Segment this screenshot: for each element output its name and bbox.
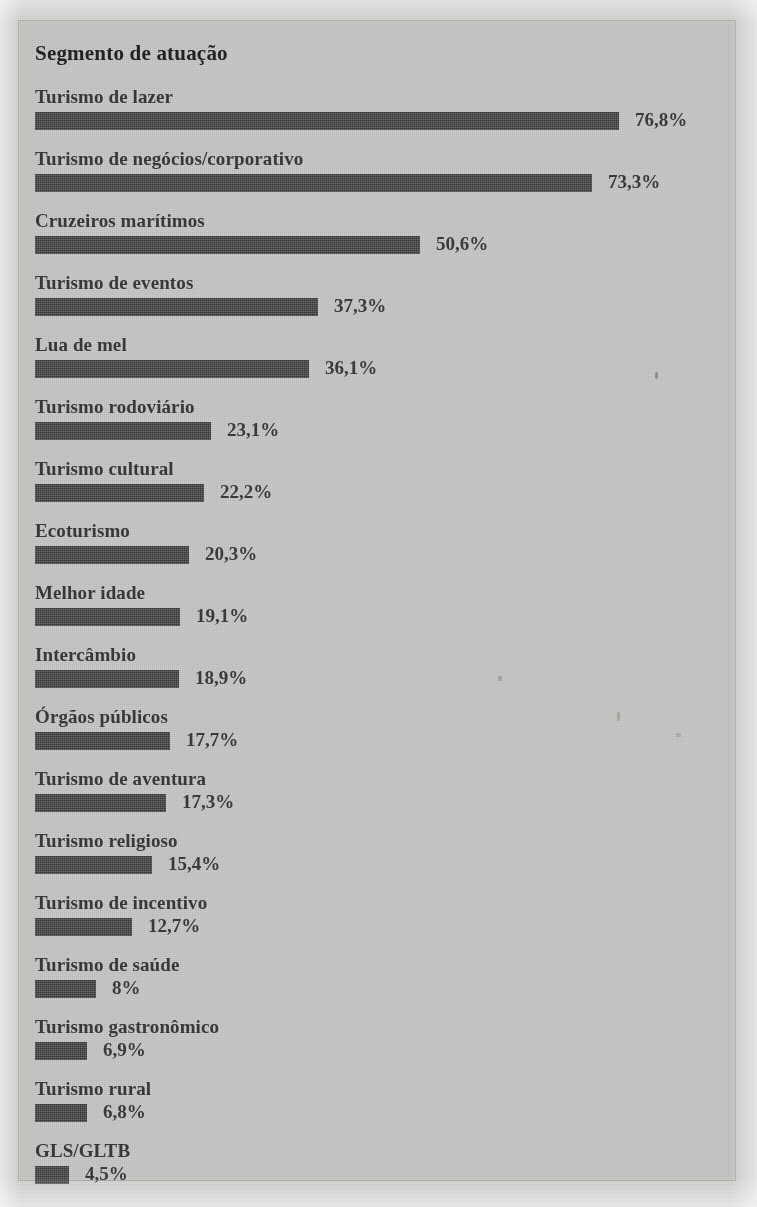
bar-category-label: Turismo rural [35, 1078, 151, 1100]
bar-value-label: 4,5% [85, 1163, 128, 1185]
bar-value-label: 37,3% [334, 295, 386, 317]
bar-track [35, 422, 725, 440]
page-title: Segmento de atuação [35, 41, 228, 66]
bar-value-label: 18,9% [195, 667, 247, 689]
bar-fill [35, 794, 166, 812]
bar-category-label: Turismo cultural [35, 458, 174, 480]
bar-fill [35, 918, 132, 936]
bar-fill [35, 546, 189, 564]
bar-category-label: Turismo religioso [35, 830, 178, 852]
bar-track [35, 546, 725, 564]
bar-fill [35, 236, 420, 254]
bar-track [35, 732, 725, 750]
bar-row: Órgãos públicos17,7% [18, 706, 736, 768]
bar-value-label: 73,3% [608, 171, 660, 193]
bar-value-label: 19,1% [196, 605, 248, 627]
bar-category-label: Intercâmbio [35, 644, 136, 666]
bar-category-label: Lua de mel [35, 334, 127, 356]
paper-speck [617, 712, 620, 721]
bar-category-label: Turismo de eventos [35, 272, 193, 294]
bar-track [35, 608, 725, 626]
bar-value-label: 6,9% [103, 1039, 146, 1061]
bar-fill [35, 980, 96, 998]
bar-row: Turismo de incentivo12,7% [18, 892, 736, 954]
bar-track [35, 856, 725, 874]
bar-fill [35, 422, 211, 440]
bar-value-label: 20,3% [205, 543, 257, 565]
bar-row: Turismo gastronômico6,9% [18, 1016, 736, 1078]
bar-value-label: 23,1% [227, 419, 279, 441]
bar-category-label: Melhor idade [35, 582, 145, 604]
bar-category-label: Ecoturismo [35, 520, 130, 542]
bar-value-label: 36,1% [325, 357, 377, 379]
bar-track [35, 484, 725, 502]
bar-fill [35, 112, 619, 130]
bar-row: Cruzeiros marítimos50,6% [18, 210, 736, 272]
bar-track [35, 1166, 725, 1184]
bar-category-label: GLS/GLTB [35, 1140, 130, 1162]
bar-category-label: Turismo de lazer [35, 86, 173, 108]
bar-category-label: Cruzeiros marítimos [35, 210, 205, 232]
bar-value-label: 22,2% [220, 481, 272, 503]
bar-value-label: 50,6% [436, 233, 488, 255]
bar-row: Turismo de negócios/corporativo73,3% [18, 148, 736, 210]
bar-category-label: Turismo rodoviário [35, 396, 195, 418]
bar-value-label: 15,4% [168, 853, 220, 875]
bar-fill [35, 608, 180, 626]
bar-row: Turismo de saúde8% [18, 954, 736, 1016]
bar-fill [35, 360, 309, 378]
bar-fill [35, 174, 592, 192]
bar-category-label: Turismo de aventura [35, 768, 206, 790]
bar-track [35, 670, 725, 688]
paper-speck [498, 676, 502, 681]
paper-speck [676, 733, 681, 737]
bar-category-label: Turismo gastronômico [35, 1016, 219, 1038]
bar-fill [35, 1166, 69, 1184]
bar-value-label: 8% [112, 977, 141, 999]
bar-row: Melhor idade19,1% [18, 582, 736, 644]
bar-fill [35, 298, 318, 316]
bar-track [35, 112, 725, 130]
bar-rows-container: Turismo de lazer76,8%Turismo de negócios… [18, 86, 736, 1202]
bar-fill [35, 1042, 87, 1060]
bar-row: Lua de mel36,1% [18, 334, 736, 396]
bar-category-label: Órgãos públicos [35, 706, 168, 728]
bar-row: Turismo rural6,8% [18, 1078, 736, 1140]
bar-fill [35, 1104, 87, 1122]
bar-category-label: Turismo de incentivo [35, 892, 207, 914]
bar-track [35, 918, 725, 936]
bar-fill [35, 670, 179, 688]
bar-track [35, 794, 725, 812]
bar-row: Turismo rodoviário23,1% [18, 396, 736, 458]
bar-value-label: 12,7% [148, 915, 200, 937]
bar-row: Turismo de eventos37,3% [18, 272, 736, 334]
bar-row: Turismo cultural22,2% [18, 458, 736, 520]
bar-row: Turismo de aventura17,3% [18, 768, 736, 830]
bar-value-label: 6,8% [103, 1101, 146, 1123]
bar-fill [35, 484, 204, 502]
bar-row: Turismo de lazer76,8% [18, 86, 736, 148]
bar-category-label: Turismo de saúde [35, 954, 180, 976]
bar-value-label: 17,3% [182, 791, 234, 813]
bar-row: Turismo religioso15,4% [18, 830, 736, 892]
bar-row: Intercâmbio18,9% [18, 644, 736, 706]
bar-row: Ecoturismo20,3% [18, 520, 736, 582]
chart-panel: Segmento de atuação Turismo de lazer76,8… [18, 20, 736, 1181]
bar-fill [35, 732, 170, 750]
bar-value-label: 17,7% [186, 729, 238, 751]
bar-track [35, 236, 725, 254]
paper-speck [655, 372, 658, 379]
bar-row: GLS/GLTB4,5% [18, 1140, 736, 1202]
bar-category-label: Turismo de negócios/corporativo [35, 148, 303, 170]
bar-fill [35, 856, 152, 874]
bar-track [35, 360, 725, 378]
bar-value-label: 76,8% [635, 109, 687, 131]
